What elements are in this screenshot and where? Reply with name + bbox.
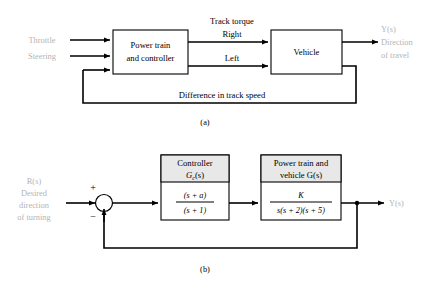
summing-junction (96, 195, 113, 212)
input-symbol-rs: R(s) (27, 177, 42, 186)
label-difference-in-track-speed: Difference in track speed (179, 90, 266, 100)
plant-numerator: K (297, 191, 304, 200)
input-label-direction: direction (19, 201, 50, 210)
input-label-throttle: Throttle (29, 36, 56, 45)
controller-numerator: (s + a) (184, 191, 207, 200)
label-left: Left (225, 53, 240, 63)
block-controller-title: Controller (177, 158, 212, 168)
block-plant-title-line2: vehicle G(s) (280, 170, 322, 180)
plant-denominator: s(s + 2)(s + 5) (277, 206, 325, 215)
output-symbol-ys-b: Y(s) (389, 199, 404, 208)
caption-b: (b) (200, 265, 210, 274)
block-power-train-and-controller (113, 30, 188, 74)
control-system-block-diagram: Throttle Steering Power train and contro… (0, 0, 422, 285)
block-power-train-label-line1: Power train (131, 40, 172, 50)
input-label-desired: Desired (21, 189, 48, 198)
label-track-torque: Track torque (210, 16, 254, 26)
block-plant-title-line1: Power train and (274, 158, 329, 168)
diagram-b: R(s) Desired direction of turning + − Co… (17, 155, 404, 274)
input-label-steering: Steering (28, 52, 57, 61)
label-right: Right (222, 29, 242, 39)
sum-sign-plus: + (90, 182, 96, 193)
output-symbol-ys-a: Y(s) (381, 25, 396, 34)
diagram-a: Throttle Steering Power train and contro… (28, 16, 413, 127)
sum-sign-minus: − (90, 211, 96, 222)
controller-denominator: (s + 1) (184, 206, 207, 215)
output-label-of-travel: of travel (381, 51, 410, 60)
caption-a: (a) (200, 118, 210, 127)
input-label-of-turning: of turning (17, 213, 51, 222)
block-vehicle-label: Vehicle (294, 47, 320, 57)
output-label-direction: Direction (381, 38, 413, 47)
block-power-train-label-line2: and controller (127, 53, 175, 63)
block-controller-transfer-symbol: Gc(s) (186, 170, 204, 181)
